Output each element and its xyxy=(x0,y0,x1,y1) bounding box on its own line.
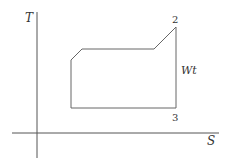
work-annotation: Wt xyxy=(181,64,197,77)
point-2-label: 2 xyxy=(172,14,178,25)
cycle-path xyxy=(71,27,176,108)
y-axis-label: T xyxy=(25,11,34,25)
ts-diagram: T S 2 3 Wt xyxy=(0,0,229,167)
point-3-label: 3 xyxy=(172,112,178,123)
x-axis-label: S xyxy=(207,134,215,148)
